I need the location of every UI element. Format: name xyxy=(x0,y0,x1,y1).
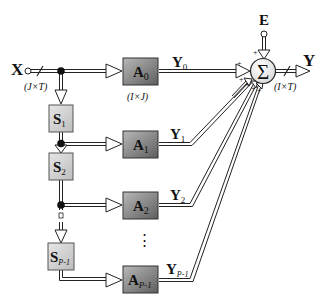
arrow-into-a0 xyxy=(106,64,122,78)
signal-y0-label: Y xyxy=(172,54,183,70)
slash-output xyxy=(284,66,290,76)
block-a1: A1 xyxy=(123,131,158,158)
arrow-into-s1 xyxy=(55,90,67,104)
wire-yp1 xyxy=(159,85,261,282)
wire-to-ap1 xyxy=(60,270,111,281)
arrow-into-ap1 xyxy=(106,273,122,287)
signal-y1-sub: 1 xyxy=(181,134,186,144)
signal-yp1-sub: P-1 xyxy=(176,270,189,279)
junction-dot-2 xyxy=(57,201,65,209)
output-label: Y xyxy=(303,51,315,70)
a-dims: (I×J) xyxy=(127,91,149,103)
sign-yp1a: + xyxy=(251,84,256,93)
block-ap1: AP-1 xyxy=(123,266,158,293)
sign-yp1b: + xyxy=(257,86,262,95)
dotted-continuation xyxy=(59,213,63,218)
svg-text:Y2: Y2 xyxy=(170,187,185,205)
block-a0-label: A xyxy=(133,64,144,80)
block-sp1-sub: P-1 xyxy=(57,258,70,267)
arrow-into-a2 xyxy=(106,198,122,212)
sign-y2: + xyxy=(245,80,250,89)
svg-text:YP-1: YP-1 xyxy=(166,261,188,279)
sum-symbol: Σ xyxy=(257,60,269,84)
noise-terminal xyxy=(261,31,267,37)
block-ap1-sub: P-1 xyxy=(138,280,152,290)
block-a0: A0 xyxy=(123,58,158,85)
output-dims: (I×T) xyxy=(274,81,297,93)
block-s1-sub: 1 xyxy=(61,119,66,129)
svg-text:Y0: Y0 xyxy=(172,54,188,72)
sign-y0: + xyxy=(237,59,242,68)
sign-e: + xyxy=(253,48,258,57)
block-a1-label: A xyxy=(133,137,144,153)
wire-junction-to-s1 xyxy=(60,72,63,92)
block-s1: S1 xyxy=(49,105,73,132)
block-a1-sub: 1 xyxy=(144,144,149,155)
junction-dot-0 xyxy=(57,67,65,75)
s-blocks: S1 S2 SP-1 xyxy=(48,105,74,270)
input-label: X xyxy=(11,60,24,79)
slash-input xyxy=(37,66,43,76)
wire-to-a2 xyxy=(61,204,110,207)
signal-yp1-label: Y xyxy=(166,261,177,277)
signal-y2-label: Y xyxy=(170,187,181,203)
block-a2-sub: 2 xyxy=(144,205,149,216)
wire-s2-down xyxy=(60,180,63,203)
block-sp1-label: S xyxy=(50,249,58,265)
block-diagram: Σ + + + + + + A0 A1 A2 AP-1 S1 xyxy=(0,0,325,305)
arrowheads xyxy=(55,50,310,287)
svg-text:Y1: Y1 xyxy=(170,126,185,144)
block-ap1-label: A xyxy=(128,272,139,288)
arrow-into-sp1 xyxy=(55,230,67,243)
junction-dot-1 xyxy=(57,140,65,148)
block-a2: A2 xyxy=(123,192,158,219)
noise-label: E xyxy=(259,12,269,28)
wire-x-to-a0 xyxy=(31,70,110,73)
ellipsis: ⋮ xyxy=(137,232,152,248)
arrow-into-a1 xyxy=(106,137,122,151)
arrow-into-sum-e xyxy=(258,50,270,59)
block-s2-sub: 2 xyxy=(61,167,66,177)
signal-y0-sub: 0 xyxy=(183,62,188,72)
block-a2-label: A xyxy=(133,198,144,214)
input-dims: (J×T) xyxy=(24,81,48,93)
block-s2: S2 xyxy=(49,153,73,180)
signal-y2-sub: 2 xyxy=(181,195,186,205)
input-terminal xyxy=(25,68,31,74)
sign-y1: + xyxy=(239,75,244,84)
block-a0-sub: 0 xyxy=(144,71,149,82)
block-s2-label: S xyxy=(53,159,61,175)
signal-y1-label: Y xyxy=(170,126,181,142)
block-s1-label: S xyxy=(53,111,61,127)
wire-to-a1 xyxy=(61,143,110,146)
block-sp1: SP-1 xyxy=(48,243,74,270)
